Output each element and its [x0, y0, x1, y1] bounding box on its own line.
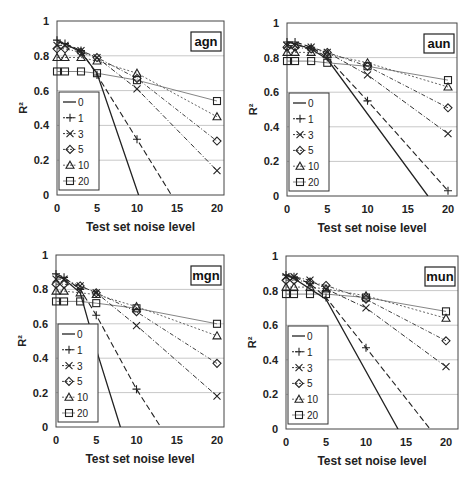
x-tick-label: 5: [94, 202, 100, 214]
y-tick-label: 0.4: [263, 354, 279, 366]
y-tick-label: 0.8: [33, 283, 48, 295]
y-tick-label: 0.6: [263, 319, 278, 331]
x-tick-label: 0: [284, 203, 290, 215]
legend-label: 10: [308, 161, 320, 172]
y-axis-label: R²: [247, 103, 259, 115]
plus-marker: [282, 271, 290, 279]
x-marker: [133, 322, 140, 329]
chart-panel-mun: 00.20.40.60.8105101520Test set noise lev…: [236, 240, 472, 480]
x-tick-label: 0: [53, 434, 59, 446]
square-marker: [214, 98, 221, 105]
chart-panel-agn: 00.20.40.60.8105101520Test set noise lev…: [0, 0, 236, 240]
legend-label: 10: [77, 392, 89, 403]
legend-label: 5: [78, 144, 84, 155]
legend-label: 0: [77, 329, 83, 340]
legend-label: 1: [308, 114, 314, 125]
y-tick-label: 0.6: [34, 85, 49, 97]
x-axis-label: Test set noise level: [85, 452, 194, 466]
triangle-marker: [213, 332, 221, 339]
x-axis-label: Test set noise level: [86, 220, 195, 234]
x-marker: [364, 71, 371, 78]
legend-label: 10: [78, 160, 90, 171]
x-tick-label: 20: [440, 436, 452, 448]
y-tick-label: 1: [272, 250, 278, 262]
x-tick-label: 10: [130, 434, 142, 446]
y-tick-label: 0.8: [263, 285, 278, 297]
legend-label: 5: [308, 145, 314, 156]
x-tick-label: 15: [171, 434, 183, 446]
plus-marker: [93, 71, 101, 79]
chart-panel-mgn: 00.20.40.60.8105101520Test set noise lev…: [0, 240, 236, 480]
plus-marker: [92, 311, 100, 319]
legend-label: 1: [78, 113, 84, 124]
panel-tag-label: aun: [427, 36, 450, 51]
legend-label: 3: [78, 129, 84, 140]
x-marker: [445, 130, 452, 137]
triangle-marker: [61, 54, 69, 61]
x-tick-label: 0: [54, 202, 60, 214]
y-tick-label: 0.4: [34, 119, 50, 131]
x-tick-label: 15: [400, 436, 412, 448]
x-tick-label: 0: [283, 436, 289, 448]
plus-marker: [283, 38, 291, 46]
x-tick-label: 10: [360, 436, 372, 448]
legend: 01351020: [58, 324, 98, 422]
diamond-marker: [213, 137, 221, 145]
chart-svg: 00.20.40.60.8105101520Test set noise lev…: [236, 0, 472, 240]
y-tick-label: 0.6: [264, 86, 279, 98]
y-axis-label: R²: [17, 102, 29, 114]
y-tick-label: 0.8: [34, 50, 49, 62]
legend-label: 3: [307, 363, 313, 374]
y-tick-label: 1: [43, 15, 49, 27]
x-tick-label: 10: [361, 203, 373, 215]
plus-marker: [362, 344, 370, 352]
panel-tag-label: agn: [194, 34, 217, 49]
x-marker: [443, 363, 450, 370]
legend: 01351020: [59, 92, 99, 190]
legend-label: 20: [77, 408, 89, 419]
y-tick-label: 0.4: [33, 352, 49, 364]
legend: 01351020: [288, 326, 328, 424]
x-marker: [214, 167, 221, 174]
chart-svg: 00.20.40.60.8105101520Test set noise lev…: [0, 0, 236, 240]
x-axis-label: Test set noise level: [317, 454, 426, 468]
y-tick-label: 0.6: [33, 318, 48, 330]
legend-label: 20: [78, 176, 90, 187]
plus-marker: [133, 135, 141, 143]
panel-tag-label: mun: [426, 269, 454, 284]
y-tick-label: 0.2: [263, 388, 278, 400]
x-marker: [94, 54, 101, 61]
legend-label: 3: [77, 361, 83, 372]
plus-marker: [133, 385, 141, 393]
y-tick-label: 0.2: [34, 154, 49, 166]
x-tick-label: 20: [211, 202, 223, 214]
x-tick-label: 20: [211, 434, 223, 446]
x-marker: [214, 393, 221, 400]
y-tick-label: 0.4: [264, 121, 280, 133]
legend-label: 5: [77, 376, 83, 387]
x-tick-label: 15: [402, 203, 414, 215]
legend-label: 0: [78, 97, 84, 108]
legend-label: 0: [307, 331, 313, 342]
legend-label: 20: [308, 177, 320, 188]
legend-label: 10: [307, 394, 319, 405]
x-marker: [363, 304, 370, 311]
y-tick-label: 0.2: [264, 155, 279, 167]
y-tick-label: 1: [273, 17, 279, 29]
x-axis-label: Test set noise level: [317, 221, 426, 235]
y-tick-label: 0: [43, 189, 49, 201]
legend: 01351020: [289, 93, 329, 191]
y-axis-label: R²: [16, 335, 28, 347]
x-tick-label: 5: [324, 203, 330, 215]
x-tick-label: 15: [171, 202, 183, 214]
y-tick-label: 1: [42, 249, 48, 261]
x-tick-label: 20: [442, 203, 454, 215]
y-tick-label: 0: [273, 190, 279, 202]
chart-svg: 00.20.40.60.8105101520Test set noise lev…: [236, 240, 472, 480]
legend-label: 3: [308, 130, 314, 141]
y-tick-label: 0.2: [33, 387, 48, 399]
y-axis-label: R²: [246, 336, 258, 348]
x-tick-label: 10: [131, 202, 143, 214]
y-tick-label: 0: [42, 421, 48, 433]
chart-panel-aun: 00.20.40.60.8105101520Test set noise lev…: [236, 0, 472, 240]
